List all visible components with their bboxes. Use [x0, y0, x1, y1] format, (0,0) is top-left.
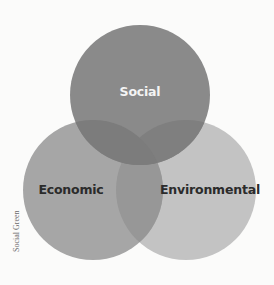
- economic-label: Economic: [38, 182, 103, 197]
- environmental-label: Environmental: [160, 182, 260, 197]
- social-label: Social: [120, 84, 161, 99]
- image-credit: Social Green: [12, 210, 21, 252]
- venn-diagram: [0, 0, 274, 285]
- venn-diagram-canvas: Social Economic Environmental Social Gre…: [0, 0, 274, 285]
